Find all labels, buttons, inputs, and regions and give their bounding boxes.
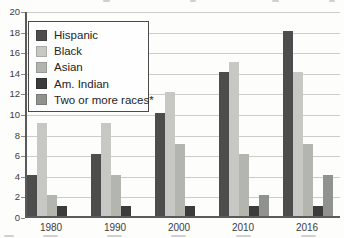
legend-label: Asian <box>54 61 83 73</box>
cropped-text-fragment <box>272 0 279 2</box>
cropped-text-fragment <box>301 235 316 237</box>
bar-am-indian-2010 <box>249 206 259 216</box>
y-tick-label-20: 20 <box>0 7 20 17</box>
cropped-text-fragment <box>190 0 196 2</box>
x-tick-label-2010: 2010 <box>221 222 265 234</box>
x-tick-label-2000: 2000 <box>157 222 201 234</box>
bar-am-indian-2016 <box>313 206 323 216</box>
cropped-text-fragment <box>107 235 122 237</box>
legend-item-hispanic: Hispanic <box>36 27 148 43</box>
bar-black-2016 <box>293 72 303 216</box>
bar-two-or-more-races-2010 <box>259 195 269 216</box>
legend-swatch-icon <box>36 62 47 73</box>
bar-black-2000 <box>165 92 175 216</box>
bar-chart: 02468101214161820 19801990200020102016 H… <box>0 0 344 238</box>
legend-item-am-indian: Am. Indian <box>36 76 148 92</box>
legend-items: HispanicBlackAsianAm. IndianTwo or more … <box>36 27 148 108</box>
bar-am-indian-1980 <box>57 206 67 216</box>
bar-asian-1980 <box>47 195 57 216</box>
x-tick-label-2016: 2016 <box>285 222 329 234</box>
y-tick-label-8: 8 <box>0 131 20 141</box>
bar-hispanic-2000 <box>155 113 165 216</box>
bar-black-1990 <box>101 123 111 216</box>
cropped-text-fragment <box>103 0 110 2</box>
bar-hispanic-2016 <box>283 31 293 216</box>
y-tick-label-18: 18 <box>0 28 20 38</box>
legend-swatch-icon <box>36 30 47 41</box>
legend-swatch-icon <box>36 78 47 89</box>
bar-asian-1990 <box>111 175 121 216</box>
legend-item-asian: Asian <box>36 59 148 75</box>
y-tick-mark-18 <box>21 33 25 34</box>
bar-black-1980 <box>37 123 47 216</box>
legend-label: Black <box>54 45 82 57</box>
bar-asian-2016 <box>303 144 313 216</box>
bar-hispanic-1980 <box>27 175 37 216</box>
legend-item-two-or-more-races: Two or more races* <box>36 92 148 108</box>
bar-two-or-more-races-2016 <box>323 175 333 216</box>
y-tick-mark-20 <box>21 12 25 13</box>
gridline-20 <box>25 12 340 13</box>
y-axis-line <box>25 12 27 218</box>
y-tick-mark-6 <box>21 156 25 157</box>
x-axis-line <box>25 216 340 218</box>
cropped-text-fragment <box>329 0 335 2</box>
y-tick-mark-14 <box>21 74 25 75</box>
y-tick-label-12: 12 <box>0 89 20 99</box>
legend-label: Am. Indian <box>54 78 109 90</box>
bar-asian-2000 <box>175 144 185 216</box>
cropped-text-fragment <box>236 235 251 237</box>
x-tick-label-1990: 1990 <box>93 222 137 234</box>
y-tick-label-14: 14 <box>0 69 20 79</box>
y-tick-mark-0 <box>21 218 25 219</box>
legend: HispanicBlackAsianAm. IndianTwo or more … <box>28 21 149 112</box>
y-tick-mark-2 <box>21 197 25 198</box>
legend-swatch-icon <box>36 46 47 57</box>
y-tick-label-6: 6 <box>0 151 20 161</box>
bar-asian-2010 <box>239 154 249 216</box>
bar-hispanic-2010 <box>219 72 229 216</box>
legend-label: Hispanic <box>54 29 98 41</box>
bar-hispanic-1990 <box>91 154 101 216</box>
y-tick-label-2: 2 <box>0 192 20 202</box>
bar-am-indian-2000 <box>185 206 195 216</box>
y-tick-label-0: 0 <box>0 213 20 223</box>
cropped-text-fragment <box>43 235 58 237</box>
x-tick-label-1980: 1980 <box>29 222 73 234</box>
y-tick-label-16: 16 <box>0 48 20 58</box>
y-tick-label-10: 10 <box>0 110 20 120</box>
legend-swatch-icon <box>36 94 47 105</box>
y-tick-mark-12 <box>21 94 25 95</box>
y-tick-mark-4 <box>21 177 25 178</box>
cropped-text-fragment <box>4 235 14 237</box>
y-tick-mark-16 <box>21 53 25 54</box>
y-tick-mark-10 <box>21 115 25 116</box>
legend-label: Two or more races* <box>54 94 154 106</box>
y-tick-label-4: 4 <box>0 172 20 182</box>
y-tick-mark-8 <box>21 136 25 137</box>
legend-item-black: Black <box>36 43 148 59</box>
bar-black-2010 <box>229 62 239 217</box>
bar-am-indian-1990 <box>121 206 131 216</box>
cropped-text-fragment <box>171 235 186 237</box>
